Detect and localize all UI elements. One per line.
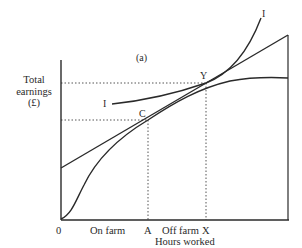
off-farm-label: Off farm bbox=[162, 225, 199, 237]
point-c-label: C bbox=[139, 108, 146, 119]
diagram-canvas bbox=[0, 0, 302, 248]
y-axis-label-line2: earnings bbox=[10, 86, 58, 98]
y-axis-label-line1: Total bbox=[10, 74, 58, 86]
indifference-curve bbox=[112, 18, 261, 104]
origin-label: 0 bbox=[56, 225, 61, 237]
panel-label: (a) bbox=[136, 52, 147, 63]
y-axis-label-line3: (£) bbox=[10, 97, 58, 109]
tick-x-label: X bbox=[202, 225, 210, 237]
off-farm-wage-line bbox=[61, 35, 288, 168]
indifference-label-right: I bbox=[262, 8, 265, 19]
y-axis-label: Total earnings (£) bbox=[10, 74, 58, 109]
earnings-diagram: (a) Total earnings (£) 0 On farm A Off f… bbox=[0, 0, 302, 248]
on-farm-label: On farm bbox=[90, 225, 125, 237]
point-y-label: Y bbox=[200, 70, 207, 81]
x-axis-title: Hours worked bbox=[155, 236, 215, 248]
indifference-label-left: I bbox=[103, 98, 106, 109]
tick-a-label: A bbox=[144, 225, 152, 237]
